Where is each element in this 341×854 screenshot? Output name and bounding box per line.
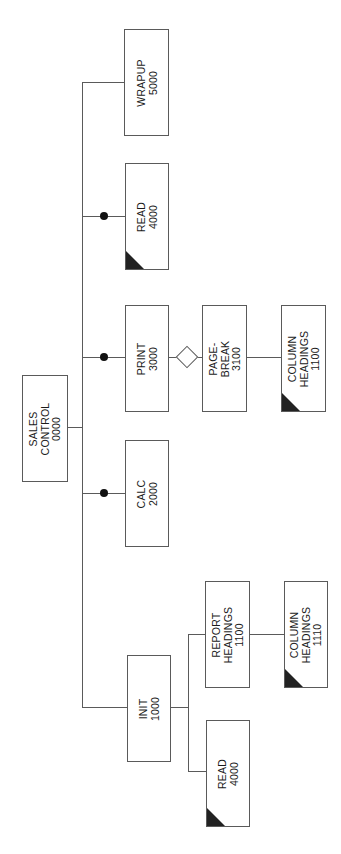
- module-label: PRINT 3000: [136, 342, 159, 375]
- connector-root-to-spine: [68, 427, 83, 428]
- module-print[interactable]: PRINT 3000: [125, 305, 169, 412]
- module-wrapup[interactable]: WRAPUP 5000: [124, 29, 169, 136]
- loop-marker-calc: [100, 489, 108, 497]
- loop-marker-print: [100, 353, 108, 361]
- structure-chart: SALES CONTROL 0000 WRAPUP 5000 READ 4000…: [0, 0, 341, 854]
- module-label: CALC 2000: [136, 479, 159, 508]
- module-calc[interactable]: CALC 2000: [125, 440, 169, 547]
- connector-read-init: [188, 771, 206, 772]
- decision-marker-pagebreak: [176, 346, 199, 369]
- module-label: REPORT HEADINGS 1100: [210, 606, 245, 662]
- module-label: COLUMN HEADINGS 1100: [286, 330, 321, 386]
- module-init[interactable]: INIT 1000: [127, 655, 171, 762]
- connector-init-spine: [171, 707, 188, 708]
- module-read-main[interactable]: READ 4000: [125, 163, 169, 270]
- predefined-module-corner-icon: [282, 393, 300, 411]
- init-sub-spine: [188, 634, 189, 772]
- connector-report-head: [188, 634, 205, 635]
- module-sales-control[interactable]: SALES CONTROL 0000: [22, 375, 68, 482]
- module-label: SALES CONTROL 0000: [28, 402, 63, 455]
- module-label: COLUMN HEADINGS 1110: [289, 606, 324, 662]
- connector-wrapup: [82, 82, 124, 83]
- module-label: WRAPUP 5000: [135, 59, 158, 106]
- connector-init: [82, 707, 127, 708]
- connector-pagebreak-colhead: [247, 357, 281, 358]
- main-spine: [82, 82, 83, 708]
- loop-marker-read: [100, 212, 108, 220]
- module-report-headings[interactable]: REPORT HEADINGS 1100: [205, 581, 250, 688]
- predefined-module-corner-icon: [285, 669, 303, 687]
- connector-reporthead-colhead: [250, 634, 284, 635]
- predefined-module-corner-icon: [126, 251, 144, 269]
- module-label: READ 4000: [136, 202, 159, 232]
- module-label: READ 4000: [217, 759, 240, 789]
- predefined-module-corner-icon: [207, 808, 225, 826]
- module-label: INIT 1000: [138, 696, 161, 720]
- module-read-init[interactable]: READ 4000: [206, 720, 250, 827]
- module-label: PAGE- BREAK 3100: [207, 340, 242, 377]
- module-column-headings-1100[interactable]: COLUMN HEADINGS 1100: [281, 305, 326, 412]
- module-page-break[interactable]: PAGE- BREAK 3100: [202, 305, 247, 412]
- module-column-headings-1110[interactable]: COLUMN HEADINGS 1110: [284, 581, 328, 688]
